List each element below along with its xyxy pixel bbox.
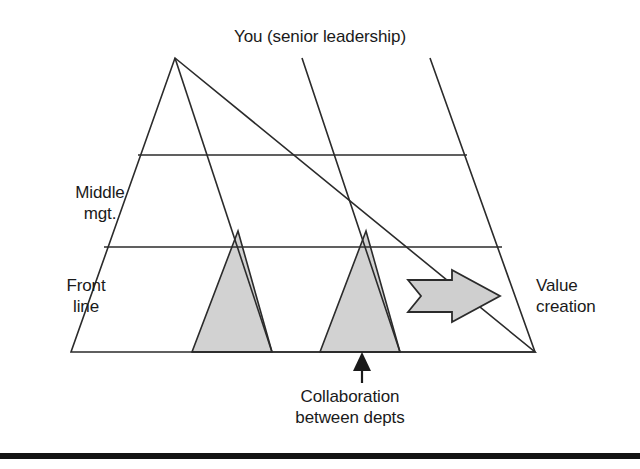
front-line-label: Front line xyxy=(36,275,136,317)
collaboration-callout-label: Collaboration between depts xyxy=(238,386,462,428)
middle-management-label: Middle mgt. xyxy=(44,182,156,224)
value-creation-label: Value creation xyxy=(536,275,640,317)
shaded-overlap-left xyxy=(192,231,272,352)
bottom-rule-bar xyxy=(0,453,640,459)
collaboration-arrow-head-icon xyxy=(353,352,371,371)
shaded-overlap-right xyxy=(320,231,400,352)
figure-root: You (senior leadership) Middle mgt. Fron… xyxy=(0,0,640,469)
title-label: You (senior leadership) xyxy=(0,26,640,47)
value-creation-arrow-icon xyxy=(408,270,500,322)
